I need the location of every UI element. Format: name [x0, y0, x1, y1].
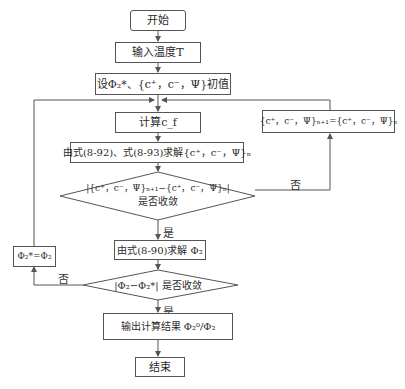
- solve-phi-label: 由式(8-90)求解 Φ₂: [117, 244, 203, 257]
- compute-cf-label: 计算c_f: [139, 116, 177, 129]
- compute-cf-node: 计算c_f: [115, 112, 201, 133]
- output-results-label: 输出计算结果 Φ₂⁰/Φ₂: [121, 320, 216, 333]
- solve-equations-node: 由式(8-92)、式(8-93)求解{c⁺，c⁻，Ψ}ₙ: [70, 142, 244, 163]
- decision1-line2: 是否收敛: [85, 195, 231, 208]
- set-initial-values-node: 设Φ₂*、{c⁺，c⁻，Ψ}初值: [95, 73, 231, 95]
- start-node: 开始: [130, 10, 186, 31]
- assign-phi-label: Φ₂*=Φ₂: [17, 250, 51, 263]
- end-label: 结束: [149, 361, 171, 374]
- output-results-node: 输出计算结果 Φ₂⁰/Φ₂: [103, 313, 233, 340]
- decision1-no-label: 否: [290, 176, 301, 192]
- solve-phi-node: 由式(8-90)求解 Φ₂: [114, 240, 206, 260]
- end-node: 结束: [135, 357, 185, 377]
- update-values-node: {c⁺，c⁻，Ψ}ₙ₊₁={c⁺，c⁻，Ψ}ₙ: [262, 110, 395, 133]
- update-values-label: {c⁺，c⁻，Ψ}ₙ₊₁={c⁺，c⁻，Ψ}ₙ: [260, 115, 398, 128]
- decision2-no-label: 否: [58, 270, 69, 286]
- decision1-line1: |{c⁺，c⁻，Ψ}ₙ₊₁−{c⁺，c⁻，Ψ}ₙ|: [85, 182, 231, 195]
- assign-phi-node: Φ₂*=Φ₂: [13, 246, 56, 267]
- decision1-label: |{c⁺，c⁻，Ψ}ₙ₊₁−{c⁺，c⁻，Ψ}ₙ| 是否收敛: [85, 182, 231, 208]
- decision2-label: |Φ₂−Φ₂*| 是否收敛: [100, 279, 216, 292]
- start-label: 开始: [147, 14, 169, 27]
- input-temperature-node: 输入温度T: [115, 42, 201, 63]
- input-temperature-label: 输入温度T: [132, 46, 183, 59]
- decision1-yes-label: 是: [163, 224, 174, 240]
- decision2-text: |Φ₂−Φ₂*| 是否收敛: [100, 279, 216, 292]
- set-initial-values-label: 设Φ₂*、{c⁺，c⁻，Ψ}初值: [97, 78, 230, 91]
- solve-equations-label: 由式(8-92)、式(8-93)求解{c⁺，c⁻，Ψ}ₙ: [63, 146, 251, 159]
